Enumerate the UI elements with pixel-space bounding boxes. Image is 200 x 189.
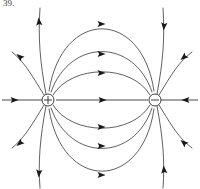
arrow-outer-lower-left-steep	[36, 169, 43, 178]
field-direction-arrows-group	[11, 17, 190, 178]
outer-field-lines-group	[12, 8, 192, 188]
arrow-arc-lower-1	[98, 124, 106, 130]
arrow-arc-upper-3	[98, 21, 106, 27]
positive-charge	[42, 94, 54, 106]
dipole-field-diagram: Electric dipole field lines	[0, 0, 200, 189]
arc-lower-1	[53, 105, 150, 128]
outer-upper-right-mid	[159, 52, 192, 95]
negative-charge	[149, 94, 161, 106]
outer-upper-right-steep	[157, 8, 164, 94]
outer-upper-left-mid	[12, 52, 44, 95]
outer-lower-right-steep	[157, 106, 164, 188]
figure-container: 39. Electric dipole field lines	[0, 0, 200, 189]
arrow-outer-upper-left-steep	[36, 17, 43, 26]
arrow-arc-upper-1	[98, 70, 106, 76]
arc-lower-3	[49, 109, 154, 171]
arrow-outer-upper-right-mid	[178, 52, 188, 62]
arc-upper-1	[53, 72, 150, 95]
arrow-arc-lower-3	[98, 172, 106, 178]
arrow-outer-upper-left-mid	[14, 52, 24, 62]
outer-lower-left-steep	[39, 106, 46, 188]
outer-lower-left-mid	[12, 105, 44, 148]
arrow-outer-lower-left-mid	[14, 138, 24, 148]
arrow-outer-lower-right-mid	[178, 138, 188, 148]
arc-upper-3	[49, 29, 154, 91]
outer-lower-right-mid	[159, 105, 192, 148]
